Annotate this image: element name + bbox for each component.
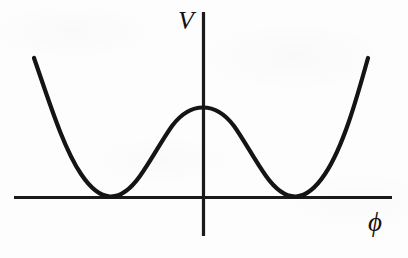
x-axis-label: ϕ bbox=[368, 209, 382, 236]
plot-canvas bbox=[0, 0, 408, 258]
y-axis-label: V bbox=[178, 8, 194, 34]
potential-curve bbox=[34, 58, 368, 197]
potential-plot-figure: V ϕ bbox=[0, 0, 408, 258]
